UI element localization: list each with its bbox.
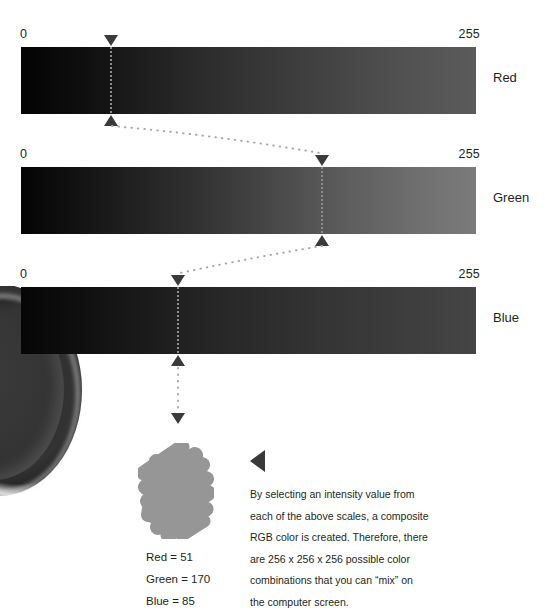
caption-line-2: each of the above scales, a composite	[250, 506, 500, 528]
gradient-bar-red[interactable]	[21, 47, 476, 114]
value-green: Green = 170	[146, 568, 210, 590]
axis-max-red: 255	[444, 28, 480, 41]
value-red: Red = 51	[146, 546, 210, 568]
caption-pointer-icon	[250, 450, 265, 472]
axis-min-green: 0	[20, 148, 27, 161]
marker-dotted-green	[321, 167, 323, 233]
caption-line-1: By selecting an intensity value from	[250, 484, 500, 506]
caption-line-4: are 256 x 256 x 256 possible color	[250, 549, 500, 571]
axis-max-green: 255	[444, 148, 480, 161]
scale-label-green: Green	[493, 190, 529, 205]
scribble-icon	[138, 443, 214, 539]
illustration-stage: 0 255 Red 0 255 Green 0 255 Blue	[0, 0, 545, 611]
axis-max-blue: 255	[444, 268, 480, 281]
caption-text: By selecting an intensity value from eac…	[250, 484, 500, 611]
scale-label-red: Red	[493, 70, 517, 85]
caption-line-3: RGB color is created. Therefore, there	[250, 527, 500, 549]
caption-line-6: the computer screen.	[250, 592, 500, 611]
marker-dotted-red	[110, 47, 112, 113]
color-swatch-scribble	[138, 443, 214, 539]
marker-up-red[interactable]	[104, 115, 118, 126]
marker-down-red[interactable]	[104, 35, 118, 46]
gradient-bar-blue[interactable]	[21, 287, 476, 354]
value-blue: Blue = 85	[146, 590, 210, 611]
marker-up-green[interactable]	[315, 235, 329, 246]
caption-line-5: combinations that you can “mix” on	[250, 570, 500, 592]
marker-dotted-blue	[177, 287, 179, 353]
axis-min-blue: 0	[20, 268, 27, 281]
rgb-value-list: Red = 51 Green = 170 Blue = 85	[146, 546, 210, 611]
axis-min-red: 0	[20, 28, 27, 41]
marker-down-green[interactable]	[315, 155, 329, 166]
marker-down-swatch[interactable]	[171, 413, 185, 424]
marker-up-blue[interactable]	[171, 355, 185, 366]
scale-label-blue: Blue	[493, 310, 519, 325]
gradient-bar-green[interactable]	[21, 167, 476, 234]
marker-down-blue[interactable]	[171, 275, 185, 286]
